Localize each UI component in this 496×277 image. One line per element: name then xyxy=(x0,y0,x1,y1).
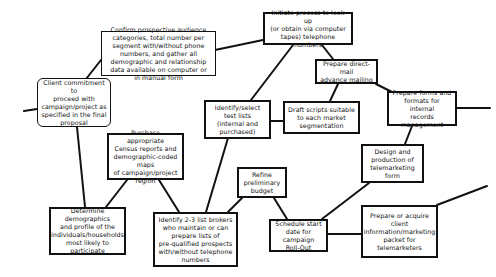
node-client-commitment: Client commitment to proceed with campai… xyxy=(37,78,111,127)
node-direct-mail: Prepare direct-mail advance mailing xyxy=(315,59,378,84)
node-confirm-audience: Confirm prospective audience categories,… xyxy=(101,31,216,76)
node-refine-budget: Refine preliminary budget xyxy=(237,167,287,198)
connector-testlists-brokers xyxy=(206,138,228,212)
connector-census-brokers xyxy=(159,180,179,212)
node-schedule-start: Schedule start date for campaign Roll-Ou… xyxy=(269,219,328,252)
connector-confirm-initiate xyxy=(215,40,263,50)
node-design-form: Design and production of telemarketing f… xyxy=(361,144,424,183)
node-initiate-lookup: Initiate process to look up (or obtain v… xyxy=(263,12,353,45)
node-forms-formats: Prepare forms and formats for internal r… xyxy=(387,91,457,126)
connector-packet-offpage-right xyxy=(437,186,487,205)
flow-diagram: Client commitment to proceed with campai… xyxy=(0,0,496,277)
node-census-reports: Purchase appropriate Census reports and … xyxy=(107,133,184,180)
connector-client-demographics xyxy=(77,127,85,207)
connector-offpage-left-client xyxy=(24,109,37,111)
connector-budget-brokers xyxy=(228,198,242,212)
connector-budget-schedule xyxy=(274,198,287,219)
connector-forms-design xyxy=(405,126,412,144)
node-client-packet: Prepare or acquire client information/ma… xyxy=(361,205,438,258)
node-test-lists: Identify/select test lists (internal and… xyxy=(204,100,271,139)
node-list-brokers: Identify 2-3 list brokers who maintain o… xyxy=(153,212,238,267)
node-draft-scripts: Draft scripts suitable to each market se… xyxy=(283,101,360,134)
connector-initiate-testlists xyxy=(251,45,293,100)
node-determine-demographics: Determine demographics and profile of th… xyxy=(49,207,126,255)
connector-directmail-scripts xyxy=(330,84,338,101)
